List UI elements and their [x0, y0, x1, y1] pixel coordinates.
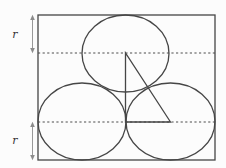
top-radius-label: r — [12, 28, 18, 41]
center-connecting-triangle — [126, 53, 171, 122]
top-radius-arrowhead-down — [30, 48, 35, 53]
top-radius-arrowhead-up — [30, 15, 35, 20]
bounding-rectangle — [38, 15, 215, 160]
diagram-page: { "labels": { "top_radius": "r", "bottom… — [0, 0, 226, 168]
circle-packing-diagram: r r — [0, 0, 226, 168]
bottom-radius-label: r — [12, 134, 18, 147]
top-radius-arrow — [30, 15, 35, 53]
bottom-radius-arrow — [30, 122, 35, 160]
bottom-radius-arrowhead-down — [30, 155, 35, 160]
bottom-radius-arrowhead-up — [30, 122, 35, 127]
